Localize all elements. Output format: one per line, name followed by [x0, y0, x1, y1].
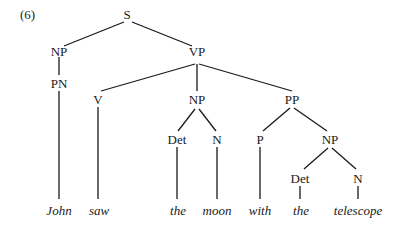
edge-PP-P: [263, 108, 290, 131]
edge-S-VP: [132, 22, 192, 46]
edge-NP-N2: [332, 148, 356, 169]
node-Det-pp: Det: [291, 171, 310, 186]
word-saw: saw: [89, 203, 110, 218]
edge-NP-Det: [178, 109, 195, 131]
tree-words: John saw the moon with the telescope: [46, 203, 382, 218]
node-NP-object: NP: [189, 92, 206, 107]
word-with: with: [249, 203, 271, 218]
edge-VP-PP: [199, 64, 292, 91]
word-the-2: the: [293, 203, 309, 218]
edge-NP-Det2: [304, 148, 328, 169]
word-john: John: [46, 203, 71, 218]
node-V: V: [93, 92, 103, 107]
node-NP-subject: NP: [51, 44, 68, 59]
node-N-object: N: [212, 132, 222, 147]
example-number: (6): [20, 7, 35, 22]
node-Det-object: Det: [168, 132, 187, 147]
node-NP-pp: NP: [322, 132, 339, 147]
edge-NP-N: [199, 109, 216, 131]
node-P: P: [256, 132, 263, 147]
syntax-tree: (6) S NP VP PN V NP PP Det N P NP Det N …: [0, 0, 403, 228]
tree-edges: [59, 22, 358, 199]
node-S: S: [123, 7, 130, 22]
node-PP: PP: [285, 92, 299, 107]
node-N-pp: N: [353, 171, 363, 186]
edge-S-NP: [64, 22, 124, 46]
word-the-1: the: [170, 203, 186, 218]
node-PN: PN: [51, 76, 68, 91]
word-moon: moon: [203, 203, 232, 218]
node-VP: VP: [189, 44, 206, 59]
word-telescope: telescope: [334, 203, 383, 218]
edge-VP-V: [101, 64, 195, 91]
edge-PP-NP: [294, 108, 327, 131]
